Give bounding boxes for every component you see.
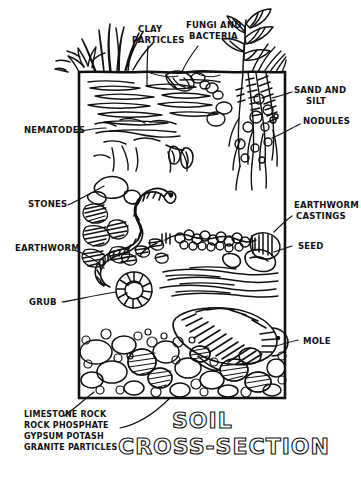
label-clay-particles-line1: CLAY [138,24,163,34]
label-gypsum-potash: GYPSUM POTASH [24,432,104,441]
label-earthworm: EARTHWORM [15,243,80,253]
label-mole: MOLE [303,336,331,346]
title-line-2: CROSS-SECTION [118,434,330,459]
title-line-1: SOIL [172,408,233,433]
label-nodules: NODULES [303,116,350,126]
label-grub: GRUB [29,297,57,307]
label-sand-silt-line2: SILT [306,96,326,106]
label-rock-phosphate: ROCK PHOSPHATE [24,421,109,430]
soil-cross-section-illustration: CLAY PARTICLES FUNGI AND BACTERIA SAND A… [0,0,361,484]
label-fungi-bacteria-line1: FUNGI AND [186,20,241,30]
label-fungi-bacteria-line2: BACTERIA [189,31,238,41]
label-nematodes: NEMATODES [24,125,85,135]
label-limestone-rock: LIMESTONE ROCK [24,410,107,419]
label-sand-silt-line1: SAND AND [294,85,346,95]
label-granite-particles: GRANITE PARTICLES [24,443,117,452]
label-seed: SEED [298,241,324,251]
label-clay-particles-line2: PARTICLES [132,35,185,45]
label-stones: STONES [28,199,67,209]
label-earthworm-castings-line1: EARTHWORM [294,200,359,210]
label-earthworm-castings-line2: CASTINGS [296,211,346,221]
